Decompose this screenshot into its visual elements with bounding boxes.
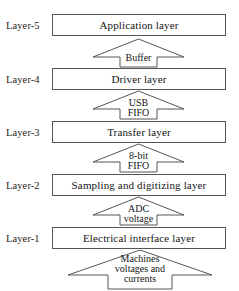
layer-box-label-2: Sampling and digitizing layer	[72, 179, 207, 191]
arrow-usb-fifo: USB FIFO	[92, 90, 185, 120]
layer-row-4: Layer-4 Driver layer	[0, 68, 239, 90]
layer-box-transfer-layer: Transfer layer	[52, 121, 226, 143]
layer-label-2: Layer-2	[6, 180, 40, 191]
arrow-adc-voltage: ADC voltage	[92, 196, 185, 226]
arrow-usb-fifo-shape	[92, 90, 185, 120]
layer-label-5: Layer-5	[6, 20, 40, 31]
layer-box-label-5: Application layer	[99, 19, 178, 31]
layer-box-label-1: Electrical interface layer	[83, 232, 195, 244]
layer-box-driver-layer: Driver layer	[52, 68, 226, 90]
arrow-buffer-shape	[92, 38, 185, 68]
layered-architecture-diagram: Layer-5 Application layer Buffer Layer-4…	[0, 0, 239, 291]
arrow-adc-voltage-shape	[92, 196, 185, 226]
layer-row-5: Layer-5 Application layer	[0, 14, 239, 36]
layer-box-electrical-interface-layer: Electrical interface layer	[52, 227, 226, 249]
layer-label-3: Layer-3	[6, 127, 40, 138]
arrow-8bit-fifo-shape	[92, 143, 185, 173]
layer-box-label-4: Driver layer	[111, 73, 166, 85]
layer-row-3: Layer-3 Transfer layer	[0, 121, 239, 143]
layer-box-sampling-digitizing-layer: Sampling and digitizing layer	[52, 174, 226, 196]
arrow-8bit-fifo: 8-bit FIFO	[92, 143, 185, 173]
arrow-machines-shape	[67, 249, 213, 290]
layer-label-4: Layer-4	[6, 74, 40, 85]
layer-row-1: Layer-1 Electrical interface layer	[0, 227, 239, 249]
layer-box-label-3: Transfer layer	[107, 126, 171, 138]
layer-row-2: Layer-2 Sampling and digitizing layer	[0, 174, 239, 196]
arrow-machines-voltages-currents: Machines voltages and currents	[67, 249, 213, 290]
arrow-buffer: Buffer	[92, 38, 185, 68]
layer-label-1: Layer-1	[6, 233, 40, 244]
layer-box-application-layer: Application layer	[52, 14, 226, 36]
